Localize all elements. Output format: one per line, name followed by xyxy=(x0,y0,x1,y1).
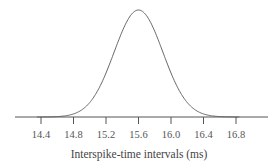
plot-area: 14.414.815.215.616.016.416.8 xyxy=(15,10,268,140)
x-tick-label: 15.2 xyxy=(97,129,115,140)
density-curve xyxy=(37,10,239,117)
x-tick-label: 16.8 xyxy=(227,129,245,140)
x-tick-label: 14.4 xyxy=(32,129,51,140)
x-axis-ticks: 14.414.815.215.616.016.416.8 xyxy=(32,117,245,140)
x-tick-label: 16.4 xyxy=(194,129,213,140)
chart: 14.414.815.215.616.016.416.8 Interspike-… xyxy=(0,0,274,168)
x-tick-label: 15.6 xyxy=(129,129,147,140)
x-tick-label: 16.0 xyxy=(162,129,180,140)
x-axis-label: Interspike-time intervals (ms) xyxy=(71,148,208,161)
x-tick-label: 14.8 xyxy=(64,129,82,140)
